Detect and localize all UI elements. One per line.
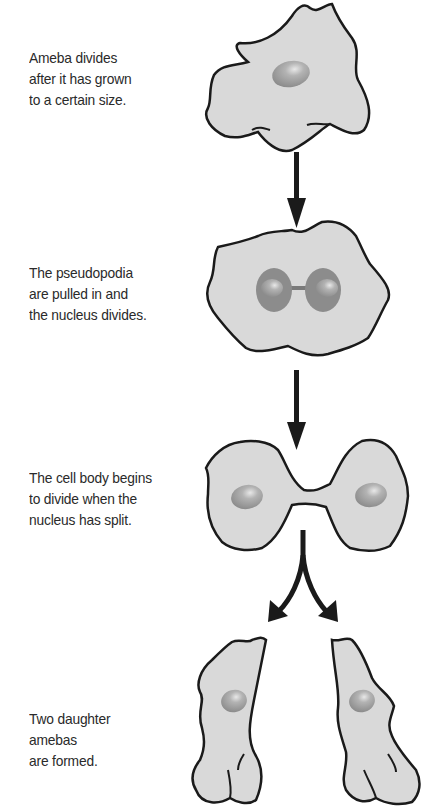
diagram-illustration (0, 0, 432, 808)
ameba-stage-1 (206, 4, 369, 151)
ameba-stage-2 (207, 222, 389, 356)
down-arrow-icon (287, 152, 306, 228)
daughter-ameba-right (332, 639, 419, 804)
down-arrow-icon (287, 370, 306, 450)
split-arrow-icon (268, 530, 338, 622)
ameba-stage-3 (206, 440, 408, 551)
daughter-ameba-left (193, 638, 266, 803)
cell-body (332, 639, 419, 804)
